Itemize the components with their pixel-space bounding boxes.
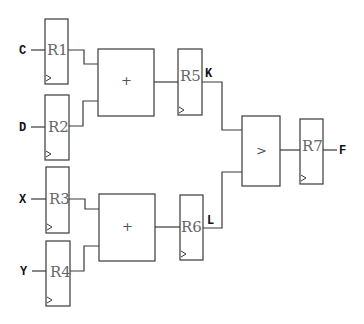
register-label: R6 (181, 218, 202, 236)
register-label: R7 (302, 137, 323, 155)
register-r1: R1 (45, 19, 68, 84)
datapath-diagram: C D X Y R1 R2 R3 R4 + + (0, 0, 364, 324)
greater-than-symbol: > (256, 143, 267, 158)
comparator: > (242, 116, 280, 186)
wire-r2-add1 (69, 101, 98, 126)
input-label-d: D (19, 121, 26, 135)
register-r5: R5 (178, 49, 202, 115)
wire-r3-add2 (69, 199, 99, 209)
signal-label-k: K (205, 67, 213, 81)
signal-label-l: L (207, 214, 214, 228)
wire-k (202, 82, 242, 130)
input-label-y: Y (20, 265, 28, 279)
register-label: R5 (180, 67, 201, 85)
input-label-c: C (19, 44, 26, 58)
plus-symbol: + (121, 73, 132, 88)
adder-2: + (99, 194, 155, 261)
output-label-f: F (339, 144, 346, 158)
plus-symbol: + (122, 219, 133, 234)
wire-r1-add1 (68, 50, 98, 64)
register-r2: R2 (45, 95, 69, 160)
register-label: R3 (49, 190, 70, 208)
register-r4: R4 (46, 241, 71, 306)
register-r3: R3 (46, 167, 70, 233)
register-label: R1 (47, 41, 68, 59)
register-label: R2 (48, 118, 69, 136)
input-label-x: X (19, 193, 27, 207)
adder-1: + (98, 49, 154, 116)
register-r7: R7 (300, 119, 323, 184)
register-r6: R6 (180, 195, 203, 260)
register-label: R4 (50, 263, 71, 281)
wire-r4-add2 (70, 246, 99, 271)
